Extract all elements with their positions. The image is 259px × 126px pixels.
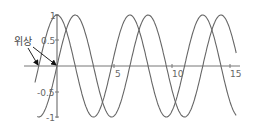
y-tick-0.5: 0.5 — [41, 36, 55, 46]
phase-arrow-1 — [28, 48, 38, 65]
phase-chart: 5 10 15 1 0.5 -0.5 -1 위상 — [0, 0, 259, 126]
x-tick-5: 5 — [115, 69, 121, 79]
x-tick-15: 15 — [230, 69, 241, 79]
phase-annotation: 위상 — [14, 35, 32, 47]
y-tick-neg-1: -1 — [46, 113, 55, 123]
